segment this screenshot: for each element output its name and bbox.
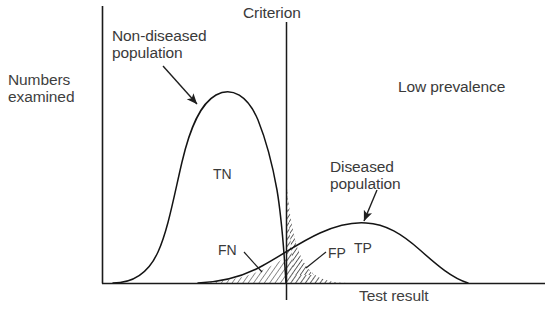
non-diseased-curve — [113, 92, 286, 283]
region-false-negative-shading — [198, 257, 286, 283]
diseased-population-label: Diseasedpopulation — [330, 158, 401, 192]
y-axis-label-line2: examined — [8, 88, 74, 105]
region-label-fn: FN — [218, 242, 236, 259]
non-diseased-label-line1: Non-diseased — [112, 27, 206, 44]
distribution-overlap-chart — [0, 0, 545, 313]
region-label-tp: TP — [354, 240, 372, 257]
y-axis-label: Numbersexamined — [8, 71, 74, 105]
low-prevalence-label: Low prevalence — [398, 78, 505, 95]
non-diseased-label-line2: population — [112, 44, 183, 61]
y-axis-label-line1: Numbers — [8, 71, 70, 88]
non-diseased-population-label: Non-diseasedpopulation — [112, 27, 206, 61]
diseased-arrow — [364, 190, 377, 221]
region-label-fp: FP — [328, 245, 346, 262]
non-diseased-arrow — [163, 66, 197, 104]
region-label-tn: TN — [213, 166, 231, 183]
diseased-label-line2: population — [330, 175, 401, 192]
false-positive-leader — [306, 252, 326, 268]
figure-canvas: Numbersexamined Non-diseasedpopulation C… — [0, 0, 545, 313]
x-axis-label: Test result — [359, 287, 429, 304]
criterion-label: Criterion — [243, 4, 301, 21]
diseased-label-line1: Diseased — [330, 158, 394, 175]
false-negative-leader — [244, 252, 262, 272]
